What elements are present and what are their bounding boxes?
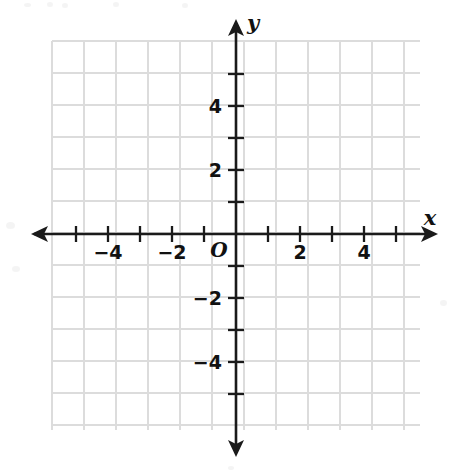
y-axis-label: y (246, 10, 261, 35)
y-axis-tick-label: 2 (209, 159, 222, 181)
y-axis-tick-label: −2 (193, 287, 222, 309)
x-axis-label: x (423, 205, 437, 230)
y-axis-tick-label: 4 (209, 95, 222, 117)
y-axis-tick-label: −4 (193, 351, 222, 373)
coordinate-plane-svg: −4−22442−2−4 O x y (0, 0, 461, 474)
x-axis-tick-label: −4 (93, 241, 122, 263)
x-axis-tick-label: 4 (357, 241, 370, 263)
axis-lines (31, 19, 438, 457)
coordinate-plane-figure: −4−22442−2−4 O x y (0, 0, 461, 474)
x-axis-tick-label: 2 (293, 241, 306, 263)
x-axis-tick-label: −2 (157, 241, 186, 263)
origin-label: O (210, 238, 228, 262)
